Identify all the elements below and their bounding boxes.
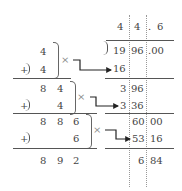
arrow-1 [73, 60, 111, 70]
arrow-3 [105, 130, 130, 139]
arrows [0, 0, 182, 191]
arrow-2 [90, 97, 118, 106]
